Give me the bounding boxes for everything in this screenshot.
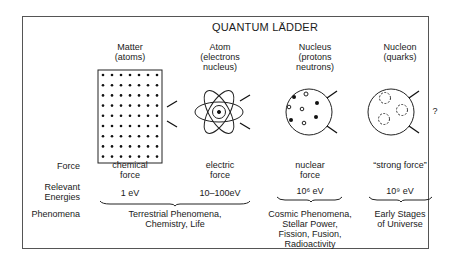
atom-lattice-icon [98, 70, 177, 163]
phenomena-early-2: of Universe [365, 219, 435, 229]
nucleon-quarks-icon [368, 89, 419, 135]
row-label-phenomena: Phenomena [20, 209, 80, 219]
force-chemical-1: chemical [100, 160, 160, 170]
force-chemical-2: force [100, 170, 160, 180]
energy-atom: 10–100eV [190, 188, 250, 198]
nucleus-icon [286, 89, 337, 135]
phenomena-early-1: Early Stages [365, 209, 435, 219]
row-label-force: Force [30, 161, 80, 171]
unknown-question-mark: ? [430, 106, 440, 116]
energy-nucleus: 10⁶ eV [280, 186, 340, 196]
energy-nucleon: 10⁹ eV [370, 186, 430, 196]
energy-matter: 1 eV [100, 188, 160, 198]
phenomena-cosmic-3: Fission, Fusion, [262, 229, 358, 239]
atom-orbit-icon [195, 86, 250, 138]
row-label-energies-1: Relevant [30, 182, 80, 192]
phenomena-terrestrial-2: Chemistry, Life [115, 219, 235, 229]
phenomena-cosmic-2: Stellar Power, [262, 219, 358, 229]
row-label-energies-2: Energies [30, 192, 80, 202]
illustrations [0, 0, 458, 270]
force-nuclear-1: nuclear [280, 160, 340, 170]
force-electric-1: electric [190, 160, 250, 170]
phenomena-cosmic-4: Radioactivity [262, 239, 358, 249]
phenomena-cosmic-1: Cosmic Phenomena, [262, 209, 358, 219]
force-electric-2: force [190, 170, 250, 180]
force-strong: “strong force” [365, 160, 435, 170]
force-nuclear-2: force [280, 170, 340, 180]
phenomena-terrestrial-1: Terrestrial Phenomena, [115, 209, 235, 219]
energy-braces [100, 197, 432, 206]
